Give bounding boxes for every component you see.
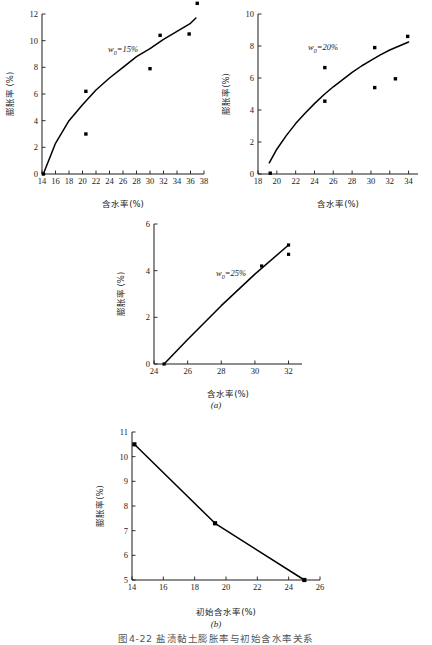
x-tick-label: 28 [348,176,357,186]
y-tick-label: 6 [124,550,128,560]
axis-lines [132,432,320,580]
data-point [132,442,136,446]
x-tick-label: 34 [404,176,413,186]
plot-area-a1: 14161820222426283032343638024681012w0=15… [0,0,216,210]
x-tick-label: 30 [251,366,260,376]
y-tick-label: 4 [34,116,39,126]
x-tick-label: 20 [273,176,282,186]
x-tick-label: 24 [105,176,114,186]
x-tick-label: 18 [65,176,74,186]
x-tick-label: 22 [253,582,261,592]
data-point [196,2,199,5]
y-tick-label: 0 [34,169,38,179]
y-axis-label: 膨胀率 (%) [116,272,126,316]
x-tick-label: 24 [284,582,293,592]
x-tick-label: 28 [217,366,226,376]
figure-caption: 图4-22 盐渍黏土膨胀率与初始含水率关系 [0,631,432,645]
x-tick-label: 14 [128,582,137,592]
x-tick-label: 32 [284,366,293,376]
x-axis-label: 含水率(%) [207,389,249,399]
x-tick-label: 22 [92,176,101,186]
series-annotation: w0=20% [308,42,338,54]
fit-curve [269,42,408,163]
y-tick-label: 2 [250,137,254,147]
fit-curve [43,18,196,174]
subfigure-label-b: (b) [0,619,432,629]
y-tick-label: 10 [30,36,39,46]
y-tick-label: 8 [250,41,254,51]
y-tick-label: 8 [124,501,128,511]
data-point [287,243,290,246]
data-point [323,100,326,103]
x-tick-label: 24 [150,366,159,376]
y-tick-label: 5 [124,575,128,585]
x-axis-label: 含水率(%) [102,199,144,209]
data-point [302,578,306,582]
y-tick-label: 6 [250,73,254,83]
x-tick-label: 26 [183,366,192,376]
y-tick-label: 6 [146,219,150,229]
x-tick-label: 38 [200,176,209,186]
data-point [260,264,263,267]
y-tick-label: 12 [30,9,39,19]
x-tick-label: 26 [119,176,128,186]
chart-panel-w0-15: 14161820222426283032343638024681012w0=15… [0,0,216,210]
y-axis-label: 膨胀率(%) [95,485,105,527]
y-tick-label: 0 [146,359,150,369]
x-axis-label: 初始含水率(%) [196,607,256,617]
x-tick-label: 20 [222,582,231,592]
x-tick-label: 14 [38,176,47,186]
data-point [42,172,45,175]
data-point [158,34,161,37]
y-tick-label: 9 [124,476,128,486]
series-annotation: w0=25% [216,268,246,280]
y-tick-label: 7 [124,526,128,536]
y-tick-label: 2 [146,312,150,322]
y-tick-label: 8 [34,62,38,72]
x-tick-label: 30 [367,176,376,186]
x-tick-label: 26 [316,582,325,592]
x-tick-label: 16 [159,582,168,592]
x-tick-label: 36 [186,176,195,186]
data-point [323,66,326,69]
data-point [373,86,376,89]
data-line [134,444,304,580]
x-tick-label: 34 [173,176,182,186]
axis-lines [258,14,418,174]
x-tick-label: 28 [132,176,141,186]
x-tick-label: 18 [190,582,199,592]
y-tick-label: 2 [34,142,38,152]
axis-lines [42,14,204,174]
x-tick-label: 22 [291,176,300,186]
x-axis-label: 含水率(%) [317,199,359,209]
y-tick-label: 10 [246,9,255,19]
data-point [287,253,290,256]
fit-curve [164,245,288,364]
data-point [213,521,217,525]
x-tick-label: 32 [386,176,395,186]
axis-lines [154,224,302,364]
data-point [84,90,87,93]
chart-panel-w0-20: 1820222426283032340246810w0=20%含水率(%)膨胀率… [216,0,432,210]
data-point [373,46,376,49]
data-point [148,67,151,70]
y-tick-label: 11 [120,427,128,437]
x-tick-label: 20 [78,176,87,186]
plot-area-a2: 1820222426283032340246810w0=20%含水率(%)膨胀率… [216,0,432,210]
data-point [162,362,165,365]
data-point [84,132,87,135]
data-point [394,77,397,80]
chart-panel-w0-25: 24262830320246w0=25%含水率(%)膨胀率 (%) [108,210,324,400]
plot-area-b: 14161820222426567891011初始含水率(%)膨胀率(%) [90,418,342,618]
x-tick-label: 16 [51,176,60,186]
subfigure-label-a: (a) [0,400,432,410]
x-tick-label: 32 [159,176,168,186]
y-tick-label: 4 [250,105,255,115]
y-axis-label: 膨胀率 (%) [5,72,15,116]
x-tick-label: 30 [146,176,155,186]
chart-panel-initial-moisture: 14161820222426567891011初始含水率(%)膨胀率(%) [90,418,342,618]
y-tick-label: 6 [34,89,38,99]
y-axis-label: 膨胀率(%) [221,73,231,115]
y-tick-label: 4 [146,266,151,276]
plot-area-a3: 24262830320246w0=25%含水率(%)膨胀率 (%) [108,210,324,400]
